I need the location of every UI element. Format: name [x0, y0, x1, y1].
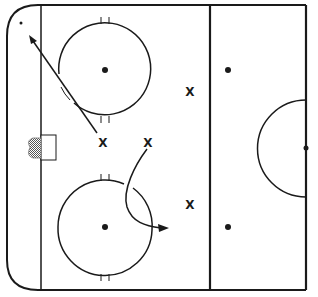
center-dot — [304, 146, 309, 151]
neutral-dot-upper — [225, 67, 231, 73]
player-marker-2: X — [143, 137, 152, 149]
goal-crease — [41, 135, 56, 160]
corner-dot — [20, 22, 23, 25]
goal-net — [29, 138, 42, 158]
hockey-rink-diagram — [0, 0, 318, 297]
player-marker-1: X — [98, 137, 107, 149]
player-marker-4: X — [185, 199, 194, 211]
center-circle — [258, 100, 307, 197]
route-arrow-curved — [126, 149, 169, 232]
player-marker-3: X — [185, 86, 194, 98]
faceoff-dot-lower — [102, 224, 108, 230]
neutral-dot-lower — [225, 224, 231, 230]
faceoff-dot-upper — [102, 67, 108, 73]
